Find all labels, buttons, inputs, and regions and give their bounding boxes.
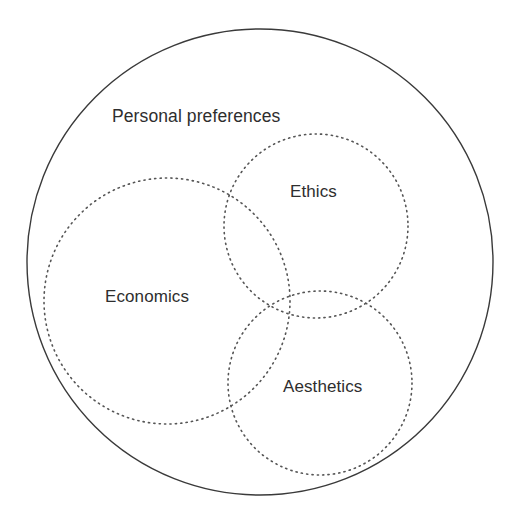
economics-label: Economics (105, 288, 189, 305)
venn-diagram-canvas (0, 0, 517, 521)
ethics-circle (224, 134, 408, 318)
ethics-label: Ethics (290, 183, 337, 200)
universe-label: Personal preferences (112, 108, 280, 126)
venn-diagram: Personal preferences Ethics Economics Ae… (0, 0, 517, 521)
aesthetics-label: Aesthetics (283, 378, 362, 395)
universe-circle (27, 29, 493, 495)
